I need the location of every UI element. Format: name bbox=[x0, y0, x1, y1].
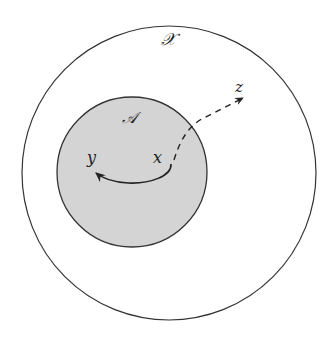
point-z-label: z bbox=[234, 78, 243, 96]
set-diagram: 𝒳 𝒜 y x z bbox=[0, 0, 331, 339]
point-y-label: y bbox=[86, 148, 97, 167]
point-x-label: x bbox=[153, 148, 162, 167]
diagram-svg: 𝒳 𝒜 y x z bbox=[0, 0, 331, 339]
